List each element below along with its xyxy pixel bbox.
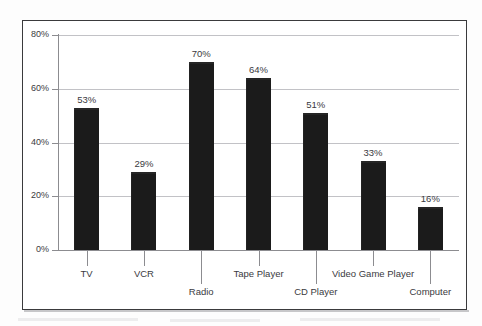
chart-page: 0%20%40%60%80% 53%29%70%64%51%33%16% TVV… (0, 0, 482, 326)
x-axis-category-label: Tape Player (214, 268, 304, 279)
y-axis-tick-label: 40% (3, 138, 49, 147)
bar-value-label: 51% (296, 100, 336, 110)
y-axis-tick (52, 250, 58, 251)
scan-artifact (18, 318, 138, 321)
frame-shadow (24, 310, 469, 312)
bars-group: 53%29%70%64%51%33%16% (58, 35, 459, 250)
x-axis-category-label: Video Game Player (328, 268, 418, 279)
chart-frame: 0%20%40%60%80% 53%29%70%64%51%33%16% TVV… (22, 20, 467, 310)
x-axis-tick (201, 250, 202, 284)
x-axis-category-label: VCR (99, 268, 189, 279)
x-axis-tick (373, 250, 374, 266)
y-axis-tick-label: 80% (3, 30, 49, 39)
x-axis-category-label: Radio (156, 286, 246, 297)
bar-value-label: 53% (67, 95, 107, 105)
scan-artifact (170, 319, 260, 322)
bar (131, 172, 156, 250)
bar-value-label: 33% (353, 148, 393, 158)
bar-value-label: 16% (410, 194, 450, 204)
bar (418, 207, 443, 250)
bar (189, 62, 214, 250)
x-axis-category-label: CD Player (271, 286, 361, 297)
bar (74, 108, 99, 250)
x-axis-tick (316, 250, 317, 284)
y-axis-tick-label: 60% (3, 84, 49, 93)
bar (303, 113, 328, 250)
bar (361, 161, 386, 250)
x-axis-tick (430, 250, 431, 284)
x-axis-tick (259, 250, 260, 266)
scan-artifact (300, 318, 440, 321)
bar-value-label: 29% (124, 159, 164, 169)
y-axis-tick-label: 20% (3, 191, 49, 200)
bar-value-label: 64% (239, 65, 279, 75)
x-axis-category-label: Computer (385, 286, 475, 297)
x-axis-tick (144, 250, 145, 266)
bar (246, 78, 271, 250)
bar-value-label: 70% (181, 49, 221, 59)
x-axis-tick (87, 250, 88, 266)
y-axis-tick-label: 0% (3, 245, 49, 254)
